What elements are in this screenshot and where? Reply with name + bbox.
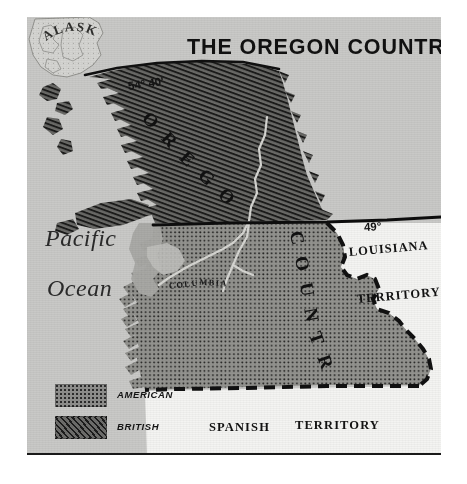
- legend-item-american: AMERICAN: [29, 384, 179, 410]
- map-legend: AMERICAN BRITISH: [29, 384, 179, 448]
- legend-swatch-american: [55, 384, 107, 407]
- map-bottom-rule: [27, 453, 441, 455]
- label-spanish: SPANISH: [209, 420, 270, 435]
- oregon-country-map-figure: ALASKA OREGON COUNTRY COLUMBIA THE OREGO…: [0, 0, 467, 484]
- legend-label-american: AMERICAN: [117, 389, 173, 400]
- label-spanish-territory: TERRITORY: [295, 418, 380, 433]
- ocean-label-ocean: Ocean: [47, 275, 112, 302]
- legend-item-british: BRITISH: [29, 416, 179, 442]
- legend-label-british: BRITISH: [117, 421, 159, 432]
- legend-swatch-british: [55, 416, 107, 439]
- british-occupied-region: [89, 62, 333, 223]
- map-title: THE OREGON COUNTRY: [187, 35, 435, 60]
- ocean-label-pacific: Pacific: [45, 225, 116, 252]
- map-plate: ALASKA OREGON COUNTRY COLUMBIA THE OREGO…: [27, 17, 441, 455]
- latitude-label-49: 49°: [364, 220, 382, 233]
